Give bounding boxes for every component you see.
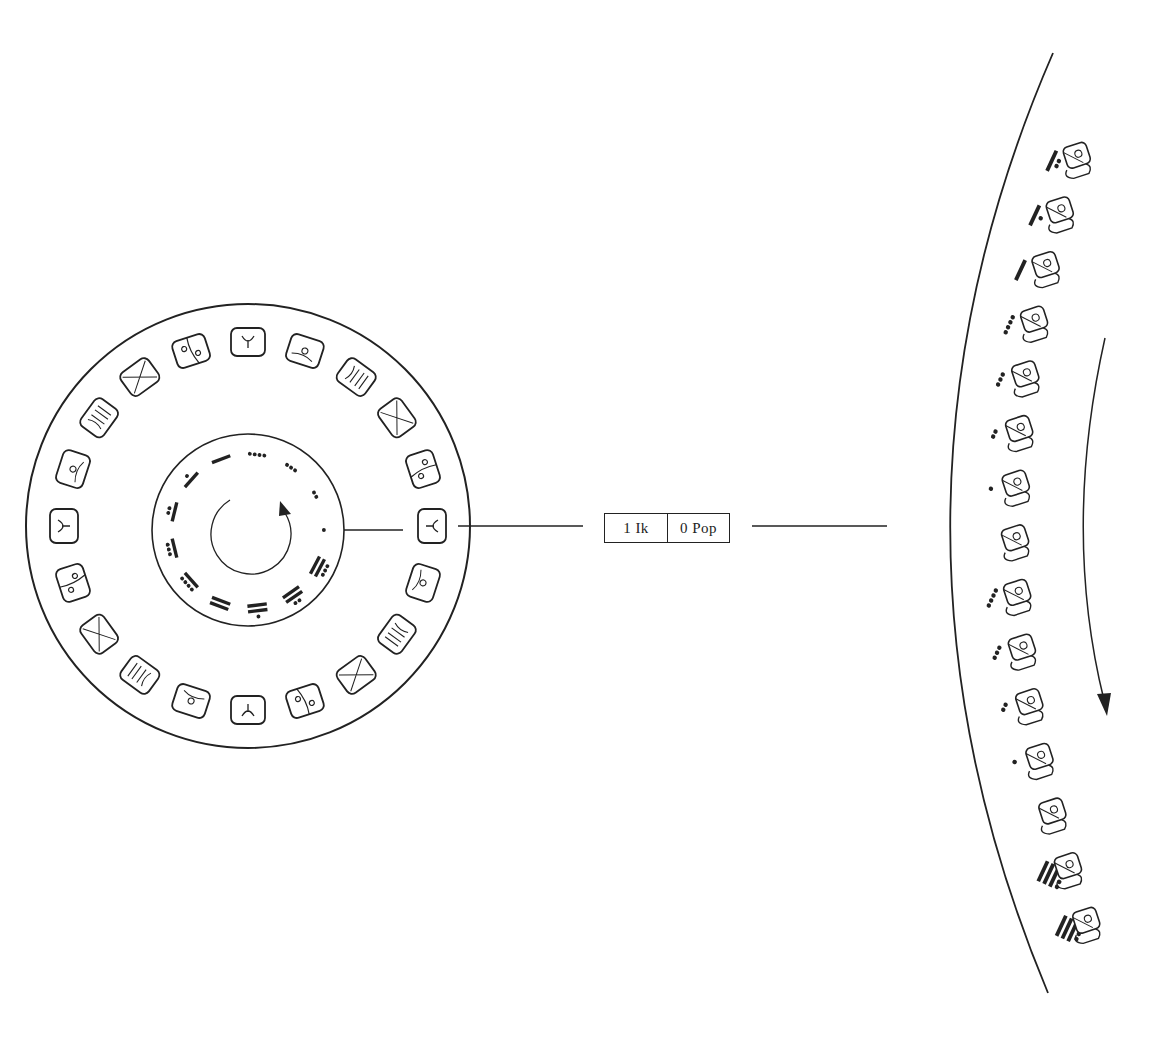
haab-entry [1003, 305, 1052, 344]
calendar-diagram [0, 0, 1150, 1042]
day-sign-chicchan [334, 356, 378, 399]
numeral-8 [165, 538, 179, 559]
haab-entry [996, 524, 1033, 563]
numeral-11 [247, 602, 268, 619]
haab-entry [988, 469, 1034, 508]
haab-entry [990, 414, 1037, 453]
rotation-arrow-icon [211, 500, 291, 574]
day-sign-men [118, 654, 162, 697]
day-sign-chuen [54, 449, 91, 490]
day-sign-ix [78, 612, 121, 656]
haab-entry [1014, 250, 1063, 289]
tzolkin-outer-wheel [26, 304, 470, 748]
haab-entry [1037, 852, 1086, 891]
tzolkin-number-wheel [152, 434, 403, 626]
tzolkin-date: 1 Ik [605, 514, 668, 542]
day-sign-akbal [404, 449, 441, 490]
haab-glyph-column [986, 141, 1104, 945]
calendar-round-date-box: 1 Ik 0 Pop [604, 513, 730, 543]
numeral-10 [209, 596, 230, 611]
day-sign-cimi [284, 332, 325, 369]
day-sign-imix [404, 562, 441, 603]
day-sign-lamat [171, 332, 212, 369]
numeral-9 [179, 572, 199, 593]
haab-entry [1012, 742, 1058, 781]
day-sign-ben [54, 562, 91, 603]
day-sign-ik [418, 509, 446, 543]
day-sign-ring [50, 328, 446, 724]
haab-entry [1045, 141, 1094, 180]
numeral-4 [248, 452, 267, 458]
haab-date: 0 Pop [668, 514, 729, 542]
numeral-5 [211, 454, 230, 464]
haab-entry [1055, 906, 1104, 945]
day-sign-ahau [376, 612, 419, 656]
haab-entry [1000, 688, 1047, 727]
haab-entry [995, 360, 1043, 399]
day-sign-cauac [334, 654, 378, 697]
direction-arrow-icon [1083, 338, 1111, 716]
numeral-2 [311, 490, 319, 500]
day-sign-oc [78, 396, 121, 440]
bar-dot-numerals [165, 452, 332, 620]
day-sign-kan [376, 396, 419, 440]
day-sign-cib [171, 682, 212, 719]
day-sign-manik [231, 328, 265, 356]
haab-entry [1034, 797, 1071, 836]
numeral-12 [282, 585, 307, 608]
numeral-1 [322, 528, 326, 532]
haab-wheel-arc [950, 53, 1053, 993]
numeral-3 [284, 462, 297, 473]
haab-entry [986, 578, 1035, 617]
haab-entry [992, 633, 1040, 672]
numeral-13 [309, 556, 331, 580]
day-sign-etznab [284, 682, 325, 719]
numeral-7 [165, 501, 179, 522]
day-sign-eb [50, 509, 78, 543]
numeral-6 [179, 467, 199, 488]
day-sign-muluc [118, 356, 162, 399]
haab-entry [1028, 196, 1077, 235]
day-sign-caban [231, 696, 265, 724]
